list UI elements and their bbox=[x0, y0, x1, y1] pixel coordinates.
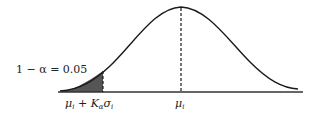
sigma-symbol: σ bbox=[104, 97, 112, 110]
mean-mu-subscript: i bbox=[182, 103, 184, 111]
normal-curve-diagram bbox=[0, 0, 321, 117]
threshold-label: μi + Kασi bbox=[65, 97, 113, 111]
sigma-subscript: i bbox=[111, 103, 113, 111]
tail-probability-label: 1 − α = 0.05 bbox=[16, 63, 87, 76]
bell-curve bbox=[60, 7, 298, 91]
mu-subscript: i bbox=[72, 103, 74, 111]
k-symbol: K bbox=[91, 97, 99, 110]
plus-sign: + bbox=[78, 97, 87, 110]
mean-label: μi bbox=[175, 97, 184, 111]
